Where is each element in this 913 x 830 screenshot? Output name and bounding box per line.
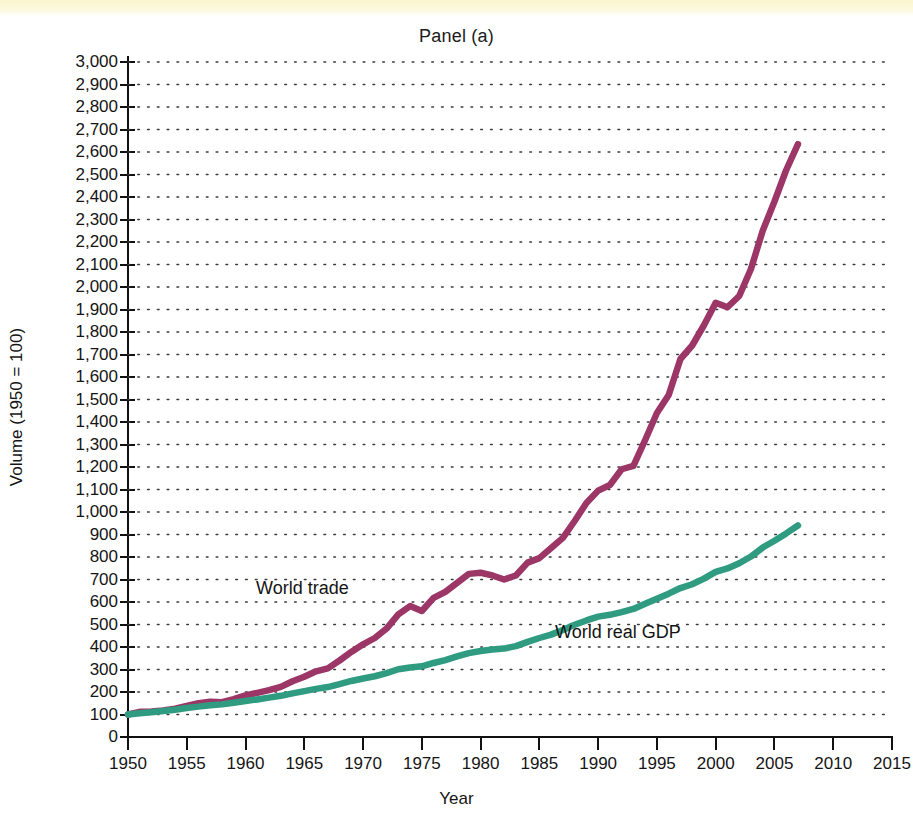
- x-axis-tick: [538, 737, 540, 750]
- plot-area: [128, 62, 892, 737]
- y-axis-tick-label: 2,200: [18, 233, 118, 250]
- x-axis-tick: [186, 737, 188, 750]
- x-axis-tick: [656, 737, 658, 750]
- y-axis-tick-label: 1,200: [18, 458, 118, 475]
- series-label-world-real-gdp: World real GDP: [555, 622, 681, 643]
- y-axis-tick-label: 1,700: [18, 346, 118, 363]
- scanned-page-tint: [0, 0, 913, 16]
- y-axis-tick-label: 1,300: [18, 436, 118, 453]
- series-line-world-real-gdp: [128, 526, 798, 715]
- series-label-world-trade: World trade: [256, 578, 349, 599]
- y-axis-tick-label: 1,800: [18, 323, 118, 340]
- y-axis-tick-label: 500: [18, 616, 118, 633]
- x-axis-tick: [127, 737, 129, 750]
- y-axis-tick-label: 1,500: [18, 391, 118, 408]
- y-axis-tick-label: 2,700: [18, 121, 118, 138]
- chart-title: Panel (a): [0, 26, 913, 47]
- y-axis-tick-label: 0: [18, 728, 118, 745]
- data-series-lines: [128, 62, 892, 737]
- y-axis-tick-label: 1,100: [18, 481, 118, 498]
- x-axis-tick: [891, 737, 893, 750]
- y-axis-tick-label: 600: [18, 593, 118, 610]
- x-axis-title: Year: [0, 789, 913, 809]
- y-axis-title: Volume (1950 = 100): [7, 197, 27, 617]
- y-axis-tick-label: 2,400: [18, 188, 118, 205]
- y-axis-tick-label: 2,900: [18, 76, 118, 93]
- x-axis-tick: [715, 737, 717, 750]
- y-axis-tick-label: 2,500: [18, 166, 118, 183]
- x-axis-tick: [245, 737, 247, 750]
- x-axis-tick: [832, 737, 834, 750]
- series-line-world-trade: [128, 144, 798, 714]
- x-axis-tick-label: 2015: [847, 754, 913, 774]
- y-axis-tick-label: 700: [18, 571, 118, 588]
- x-axis-tick: [597, 737, 599, 750]
- y-axis-tick-label: 2,800: [18, 98, 118, 115]
- y-axis-tick-label: 900: [18, 526, 118, 543]
- y-axis-tick-label: 200: [18, 683, 118, 700]
- y-axis-tick-label: 300: [18, 661, 118, 678]
- x-axis-tick: [421, 737, 423, 750]
- y-axis-tick-label: 400: [18, 638, 118, 655]
- x-axis-tick: [773, 737, 775, 750]
- y-axis-tick-label: 2,300: [18, 211, 118, 228]
- y-axis-tick-label: 800: [18, 548, 118, 565]
- y-axis-tick-label: 2,600: [18, 143, 118, 160]
- y-axis-tick-label: 2,000: [18, 278, 118, 295]
- x-axis-tick: [362, 737, 364, 750]
- x-axis-tick: [480, 737, 482, 750]
- y-axis-tick-label: 1,600: [18, 368, 118, 385]
- y-axis-tick-label: 1,900: [18, 301, 118, 318]
- y-axis-tick-label: 2,100: [18, 256, 118, 273]
- y-axis-tick-label: 3,000: [18, 53, 118, 70]
- y-axis-tick-label: 100: [18, 706, 118, 723]
- x-axis-tick: [303, 737, 305, 750]
- y-axis-tick-label: 1,400: [18, 413, 118, 430]
- y-axis-tick-label: 1,000: [18, 503, 118, 520]
